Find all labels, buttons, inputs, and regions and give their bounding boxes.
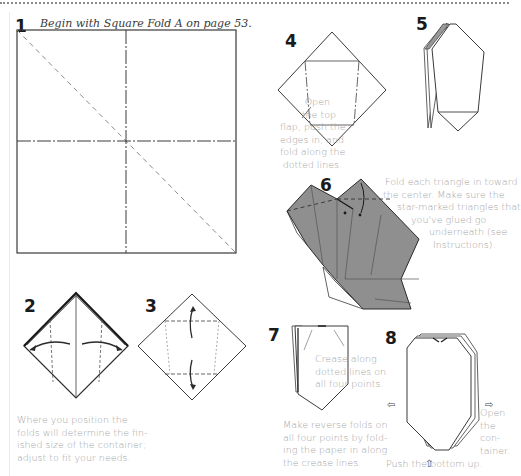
step-2-note: Where you position the folds will determ… bbox=[17, 414, 148, 464]
step-8-push-note: Push the bottom up. bbox=[386, 458, 483, 471]
arrow-left-icon: ⇦ bbox=[387, 399, 395, 410]
step-2-diamond-diagram bbox=[20, 290, 132, 402]
step-7-reverse-fold-note: Make reverse folds on all four points by… bbox=[283, 419, 387, 469]
step-3-diamond-diagram bbox=[136, 290, 248, 402]
step-7-number: 7 bbox=[268, 327, 280, 344]
step-8-container-diagram bbox=[395, 330, 493, 460]
step-4-note: Open the top flap, push the edges in, an… bbox=[280, 96, 342, 171]
step-8-open-note: Open the con- tainer. bbox=[480, 407, 510, 457]
step-6-note: Fold each triangle in toward the center.… bbox=[385, 176, 521, 251]
step-5-hexagon-diagram bbox=[420, 20, 500, 140]
step-7-crease-note: Crease along dotted lines on all four po… bbox=[315, 353, 386, 391]
